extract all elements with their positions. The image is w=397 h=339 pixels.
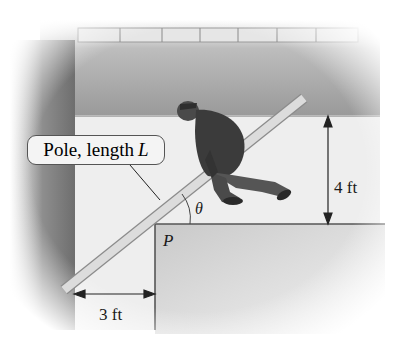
corner-pole-diagram: Pole, length L 4 ft 3 ft P θ [0, 0, 397, 339]
callout-variable: L [138, 139, 149, 161]
angle-label: θ [195, 200, 203, 218]
pole-callout: Pole, length L [27, 135, 165, 165]
diagram-graphics [0, 0, 397, 339]
corner-point-label: P [163, 231, 173, 251]
lower-hall-width-label: 3 ft [99, 305, 122, 325]
callout-text: Pole, length [43, 139, 134, 161]
upper-hall-width-label: 4 ft [334, 178, 357, 198]
